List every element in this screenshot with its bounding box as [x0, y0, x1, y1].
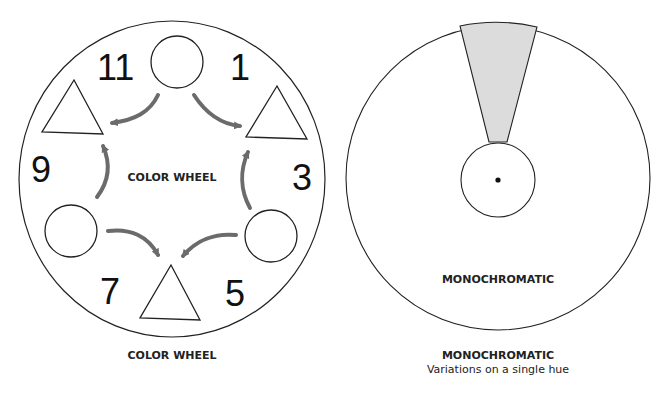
circle-shape-right: [245, 210, 297, 262]
circle-shape-top: [151, 36, 203, 88]
triangle-shape-bottom: [140, 265, 200, 320]
arrow-left-circle-to-triangle: [97, 146, 108, 197]
monochromatic-diagram: MONOCHROMATIC: [346, 22, 650, 330]
monochromatic-caption: MONOCHROMATIC Variations on a single hue: [398, 349, 598, 377]
monochromatic-caption-title: MONOCHROMATIC: [398, 349, 598, 363]
monochromatic-caption-subtitle: Variations on a single hue: [398, 363, 598, 377]
circle-shape-left: [45, 205, 97, 257]
position-number-11: 11: [97, 47, 134, 88]
arrow-top-to-left: [112, 95, 158, 123]
position-number-1: 1: [230, 47, 250, 88]
position-number-7: 7: [100, 271, 120, 312]
arrow-right-circle-to-triangle: [242, 152, 250, 208]
position-number-3: 3: [292, 157, 312, 198]
color-wheel-caption: COLOR WHEEL: [92, 349, 252, 363]
center-dot: [495, 177, 500, 182]
arrow-left-circle-to-bottom: [108, 230, 158, 255]
color-wheel-diagram: 11 1 9 3 7 5 COLOR WHEEL: [19, 21, 325, 337]
monochromatic-center-label: MONOCHROMATIC: [442, 273, 554, 286]
arrow-top-to-right: [194, 95, 240, 126]
diagram-canvas: 11 1 9 3 7 5 COLOR WHEEL MONOCHROMATIC: [0, 0, 664, 394]
arrow-right-circle-to-bottom: [183, 235, 236, 256]
triangle-shape-left: [42, 80, 103, 134]
position-number-5: 5: [225, 273, 245, 314]
triangle-shape-right: [246, 86, 307, 139]
color-wheel-center-label: COLOR WHEEL: [127, 171, 216, 184]
position-number-9: 9: [31, 149, 51, 190]
